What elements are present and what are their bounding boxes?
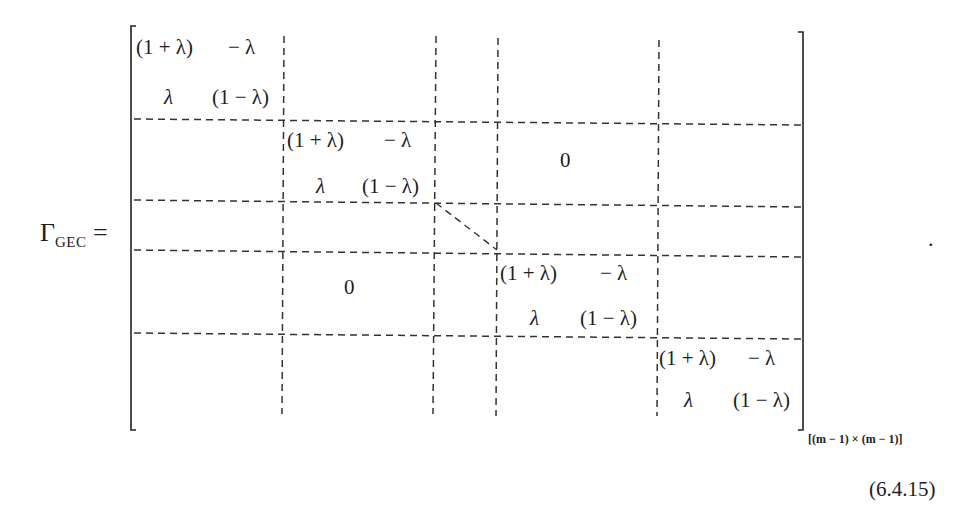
gamma-symbol: Γ	[40, 218, 55, 247]
vertical-partitions	[282, 36, 659, 416]
block2-r2c2: (1 − λ)	[362, 176, 419, 197]
block4-r1c1: (1 + λ)	[659, 348, 716, 369]
equation-number: (6.4.15)	[869, 477, 936, 502]
diagonal-ellipsis	[436, 203, 497, 250]
horizontal-partitions	[134, 119, 802, 339]
right-bracket	[798, 32, 803, 430]
block1-r2c2: (1 − λ)	[212, 87, 269, 108]
block4-r2c1: λ	[684, 390, 693, 411]
block1-r2c1: λ	[164, 87, 173, 108]
block4-r2c2: (1 − λ)	[733, 390, 790, 411]
block2-r2c1: λ	[316, 176, 325, 197]
block3-r1c1: (1 + λ)	[500, 263, 557, 284]
gamma-subscript: GEC	[55, 234, 87, 250]
block3-r2c2: (1 − λ)	[580, 308, 637, 329]
zero-upper-right: 0	[560, 150, 571, 171]
block3-r1c2: − λ	[600, 263, 627, 284]
block4-r1c2: − λ	[748, 348, 775, 369]
matrix-dimension: [(m − 1) × (m − 1)]	[808, 432, 902, 447]
equals-sign: =	[93, 218, 108, 247]
block3-r2c1: λ	[530, 308, 539, 329]
block1-r1c1: (1 + λ)	[136, 37, 193, 58]
block2-r1c2: − λ	[384, 130, 411, 151]
left-bracket	[131, 26, 136, 430]
trailing-period: .	[928, 226, 934, 252]
lhs-gamma-gec: ΓGEC =	[40, 218, 108, 248]
block2-r1c1: (1 + λ)	[287, 130, 344, 151]
block1-r1c2: − λ	[228, 37, 255, 58]
zero-lower-left: 0	[344, 277, 355, 298]
